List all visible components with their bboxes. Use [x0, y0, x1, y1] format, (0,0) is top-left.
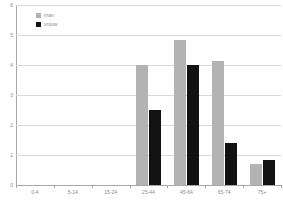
x-tick-label-65-74: 65-74	[218, 190, 231, 195]
bar-group-0-4	[22, 5, 47, 185]
x-tick-label-0-4: 0-4	[31, 190, 38, 195]
bar-man-45-64	[174, 40, 186, 186]
x-tick-mark-6	[243, 185, 244, 188]
bar-group-65-74	[212, 5, 237, 185]
legend-swatch-vrouw-icon	[36, 22, 41, 27]
bar-chart: 0123456 0-45-1415-2425-4445-6465-7475+ m…	[0, 0, 283, 206]
x-axis-labels: 0-45-1415-2425-4445-6465-7475+	[16, 190, 281, 204]
chart-legend: man vrouw	[36, 13, 57, 27]
x-tick-label-75+: 75+	[258, 190, 266, 195]
legend-label-vrouw: vrouw	[44, 22, 57, 27]
bar-vrouw-45-64	[187, 65, 199, 185]
bar-man-25-44	[136, 65, 148, 185]
bar-group-5-14	[60, 5, 85, 185]
y-tick-label-0: 0	[10, 183, 13, 188]
x-tick-label-15-24: 15-24	[104, 190, 117, 195]
x-tick-mark-7	[281, 185, 282, 188]
bar-group-45-64	[174, 5, 199, 185]
y-tick-label-4: 4	[10, 63, 13, 68]
legend-swatch-man-icon	[36, 13, 41, 18]
y-tick-label-1: 1	[10, 153, 13, 158]
bar-vrouw-65-74	[225, 143, 237, 185]
x-tick-label-5-14: 5-14	[68, 190, 78, 195]
x-tick-mark-0	[16, 185, 17, 188]
legend-entry-vrouw: vrouw	[36, 22, 57, 27]
x-tick-label-45-64: 45-64	[180, 190, 193, 195]
bar-man-75+	[250, 164, 262, 185]
y-tick-label-3: 3	[10, 93, 13, 98]
x-tick-mark-4	[167, 185, 168, 188]
bar-man-65-74	[212, 61, 224, 186]
bar-group-15-24	[98, 5, 123, 185]
x-tick-label-25-44: 25-44	[142, 190, 155, 195]
legend-label-man: man	[44, 13, 54, 18]
y-tick-label-5: 5	[10, 33, 13, 38]
bar-vrouw-75+	[263, 160, 275, 185]
y-tick-label-2: 2	[10, 123, 13, 128]
legend-entry-man: man	[36, 13, 57, 18]
x-tick-mark-1	[54, 185, 55, 188]
x-tick-mark-2	[92, 185, 93, 188]
x-tick-mark-3	[130, 185, 131, 188]
bars-layer	[16, 5, 281, 185]
bar-group-25-44	[136, 5, 161, 185]
x-tick-mark-5	[205, 185, 206, 188]
bar-group-75+	[250, 5, 275, 185]
bar-vrouw-25-44	[149, 110, 161, 185]
y-tick-label-6: 6	[10, 3, 13, 8]
plot-area: 0123456	[16, 5, 281, 185]
gridline-0	[16, 185, 281, 186]
